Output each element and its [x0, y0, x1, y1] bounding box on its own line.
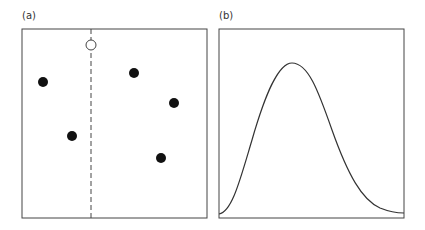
diagram-canvas [0, 0, 425, 230]
open-point [86, 40, 96, 50]
filled-point [67, 131, 77, 141]
density-curve [219, 63, 404, 214]
filled-point [129, 68, 139, 78]
panel-a [22, 29, 207, 218]
filled-point [156, 153, 166, 163]
panel-b [219, 29, 404, 218]
filled-point [169, 98, 179, 108]
filled-point [38, 77, 48, 87]
